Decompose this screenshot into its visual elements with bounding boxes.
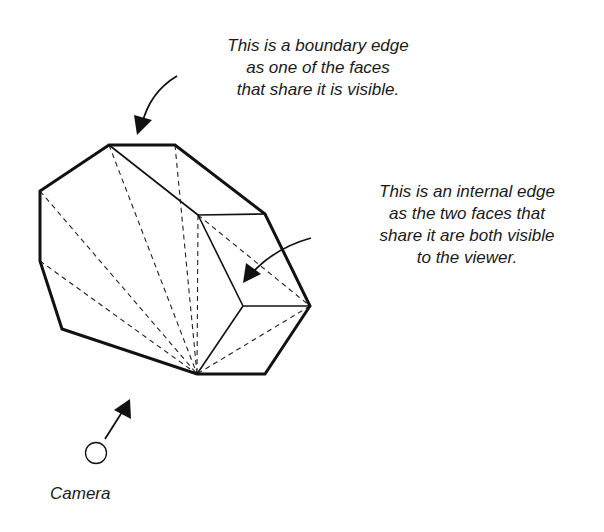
- camera-arrowhead: [114, 399, 131, 419]
- internal-edges: [109, 145, 310, 374]
- annotation-line: as one of the faces: [178, 57, 458, 79]
- annotation-line: as the two faces that: [330, 203, 604, 225]
- camera-icon: [86, 443, 107, 464]
- annotation-line: share it are both visible: [330, 225, 604, 247]
- annotation-line: that share it is visible.: [178, 79, 458, 101]
- annotation-line: This is a boundary edge: [178, 35, 458, 57]
- annotation-line: This is an internal edge: [330, 181, 604, 203]
- camera-label: Camera: [50, 483, 142, 505]
- boundary-edge-arrow: [142, 76, 177, 124]
- annotation-line: to the viewer.: [330, 247, 604, 269]
- boundary-edge-arrowhead: [134, 115, 152, 135]
- boundary-outline: [40, 145, 310, 374]
- internal-edge-annotation: This is an internal edge as the two face…: [330, 181, 604, 269]
- internal-edge-arrow: [252, 238, 311, 273]
- boundary-edge-annotation: This is a boundary edge as one of the fa…: [178, 35, 458, 101]
- hidden-edges: [40, 145, 310, 374]
